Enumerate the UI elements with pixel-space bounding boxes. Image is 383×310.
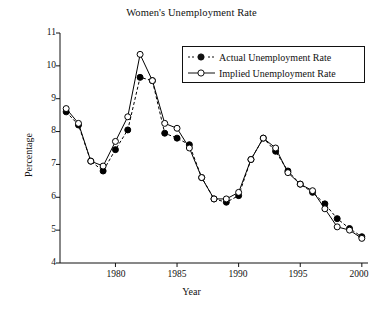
y-tick-label-9: 9 (34, 93, 56, 103)
y-tick-label-8: 8 (34, 125, 56, 135)
y-tick-marks (56, 33, 60, 263)
y-tick-label-10: 10 (34, 60, 56, 70)
y-tick-label-6: 6 (34, 191, 56, 201)
x-tick-label-1985: 1985 (157, 269, 197, 279)
x-axis-label: Year (0, 286, 383, 297)
chart-title: Women's Unemployment Rate (0, 7, 383, 18)
x-tick-label-2000: 2000 (339, 269, 379, 279)
legend-label-implied: Implied Unemployment Rate (219, 68, 336, 79)
legend-item-actual: Actual Unemployment Rate (187, 49, 364, 65)
y-axis-label: Percentage (9, 5, 20, 105)
x-tick-label-1995: 1995 (278, 269, 318, 279)
series-actual (63, 74, 365, 239)
legend-marker-open-circle-solid (187, 66, 217, 80)
legend-item-implied: Implied Unemployment Rate (187, 65, 364, 81)
y-tick-label-7: 7 (34, 158, 56, 168)
x-tick-label-1980: 1980 (96, 269, 136, 279)
y-tick-label-5: 5 (34, 224, 56, 234)
x-tick-label-1990: 1990 (218, 269, 258, 279)
y-tick-label-4: 4 (34, 257, 56, 267)
chart-figure: Women's Unemployment Rate Percentage Yea… (0, 0, 383, 310)
legend-label-actual: Actual Unemployment Rate (219, 52, 331, 63)
chart-legend: Actual Unemployment Rate Implied Unemplo… (182, 46, 365, 83)
y-tick-label-11: 11 (34, 27, 56, 37)
legend-marker-filled-circle-dashed (187, 50, 217, 64)
x-tick-marks (115, 263, 361, 267)
